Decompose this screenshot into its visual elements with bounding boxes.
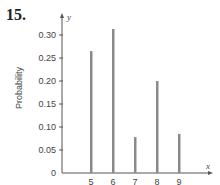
bar-9 [178, 134, 181, 173]
x-tick-label: 7 [132, 177, 137, 185]
probability-chart: yx00.050.100.150.200.250.30Probability56… [0, 0, 220, 185]
y-tick-label: 0.15 [38, 99, 56, 109]
y-axis-label: Probability [14, 66, 24, 109]
y-tick-label: 0.10 [38, 122, 56, 132]
x-axis-label: x [205, 161, 210, 171]
bar-7 [134, 137, 137, 173]
y-axis-arrow-icon [60, 13, 64, 18]
x-axis-arrow-icon [208, 171, 213, 175]
y-tick-label: 0 [51, 168, 56, 178]
x-tick-label: 5 [88, 177, 93, 185]
x-tick-label: 9 [176, 177, 181, 185]
x-tick-label: 6 [110, 177, 115, 185]
y-tick-label: 0.25 [38, 53, 56, 63]
x-tick-label: 8 [154, 177, 159, 185]
y-axis-var: y [66, 12, 71, 22]
bar-5 [90, 51, 93, 173]
y-tick-label: 0.20 [38, 76, 56, 86]
y-tick-label: 0.30 [38, 30, 56, 40]
bar-6 [112, 29, 115, 173]
y-tick-label: 0.05 [38, 145, 56, 155]
bar-8 [156, 81, 159, 173]
